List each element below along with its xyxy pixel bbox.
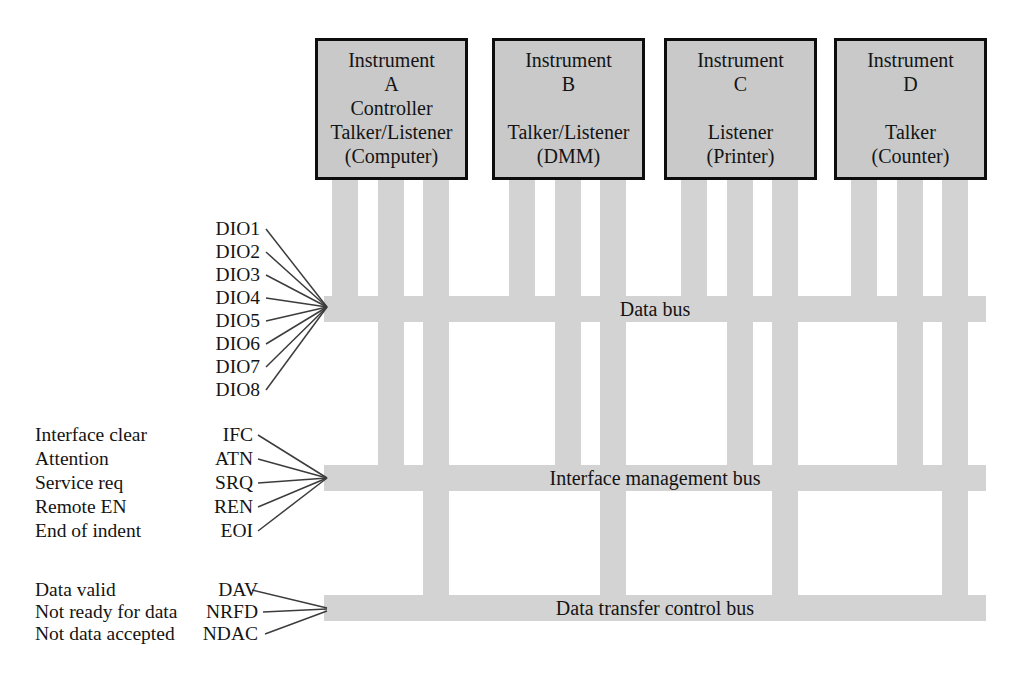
instrument-b-line5: (DMM): [495, 144, 642, 168]
desc-end-of-indent: End of indent: [35, 519, 147, 543]
instrument-b-line2: B: [495, 72, 642, 96]
transfer-signal-descriptions: Data valid Not ready for data Not data a…: [35, 579, 177, 645]
desc-interface-clear: Interface clear: [35, 423, 147, 447]
signal-ren: REN: [173, 495, 253, 519]
instrument-d-line5: (Counter): [837, 144, 984, 168]
management-fan-lines: [258, 435, 327, 531]
desc-data-valid: Data valid: [35, 579, 177, 601]
instrument-d-line4: Talker: [837, 120, 984, 144]
signal-dio8: DIO8: [180, 378, 260, 401]
instrument-c-line1: Instrument: [667, 48, 814, 72]
instrument-b-line4: Talker/Listener: [495, 120, 642, 144]
signal-nrfd: NRFD: [178, 601, 258, 623]
instrument-c-line4: Listener: [667, 120, 814, 144]
signal-dio5: DIO5: [180, 309, 260, 332]
instrument-a-line2: A: [318, 72, 465, 96]
instrument-a-box: Instrument A Controller Talker/Listener …: [315, 38, 468, 180]
instrument-a-line3: Controller: [318, 96, 465, 120]
signal-ndac: NDAC: [178, 623, 258, 645]
transfer-fan-lines: [252, 590, 327, 634]
instrument-c-line5: (Printer): [667, 144, 814, 168]
dio-fan-lines: [266, 229, 327, 390]
instrument-d-line1: Instrument: [837, 48, 984, 72]
data-bus-signal-list: DIO1 DIO2 DIO3 DIO4 DIO5 DIO6 DIO7 DIO8: [180, 217, 260, 401]
instrument-d-box: Instrument D Talker (Counter): [834, 38, 987, 180]
signal-dav: DAV: [178, 579, 258, 601]
desc-service-req: Service req: [35, 471, 147, 495]
instrument-a-line1: Instrument: [318, 48, 465, 72]
instrument-b-line1: Instrument: [495, 48, 642, 72]
instrument-d-line3: [837, 96, 984, 120]
signal-dio6: DIO6: [180, 332, 260, 355]
instrument-d-line2: D: [837, 72, 984, 96]
instrument-b-line3: [495, 96, 642, 120]
gpib-bus-diagram: Data bus Interface management bus Data t…: [0, 0, 1023, 678]
instrument-c-line2: C: [667, 72, 814, 96]
signal-dio4: DIO4: [180, 286, 260, 309]
signal-dio3: DIO3: [180, 263, 260, 286]
instrument-a-line4: Talker/Listener: [318, 120, 465, 144]
management-signal-descriptions: Interface clear Attention Service req Re…: [35, 423, 147, 543]
signal-dio2: DIO2: [180, 240, 260, 263]
transfer-signal-acronyms: DAV NRFD NDAC: [178, 579, 258, 645]
signal-atn: ATN: [173, 447, 253, 471]
signal-dio1: DIO1: [180, 217, 260, 240]
instrument-a-line5: (Computer): [318, 144, 465, 168]
desc-attention: Attention: [35, 447, 147, 471]
signal-eoi: EOI: [173, 519, 253, 543]
management-signal-acronyms: IFC ATN SRQ REN EOI: [173, 423, 253, 543]
instrument-b-box: Instrument B Talker/Listener (DMM): [492, 38, 645, 180]
desc-not-ready-for-data: Not ready for data: [35, 601, 177, 623]
desc-not-data-accepted: Not data accepted: [35, 623, 177, 645]
signal-dio7: DIO7: [180, 355, 260, 378]
signal-ifc: IFC: [173, 423, 253, 447]
instrument-c-line3: [667, 96, 814, 120]
instrument-c-box: Instrument C Listener (Printer): [664, 38, 817, 180]
desc-remote-en: Remote EN: [35, 495, 147, 519]
signal-srq: SRQ: [173, 471, 253, 495]
